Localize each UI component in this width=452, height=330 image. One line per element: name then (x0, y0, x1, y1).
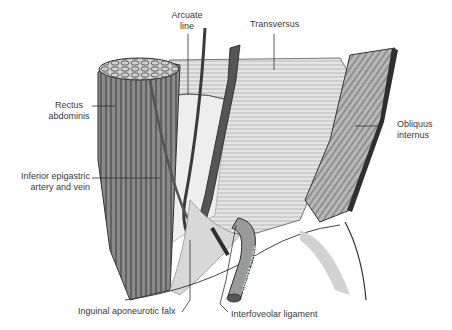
label-line: Interfoveolar ligament (231, 309, 318, 320)
shading (300, 230, 350, 295)
label-interfoveolar-ligament: Interfoveolar ligament (231, 309, 318, 320)
label-obliquus-internus: Obliquus internus (397, 119, 433, 141)
rectus-abdominis-muscle (98, 61, 180, 300)
label-line: abdominis (44, 111, 94, 122)
label-inguinal-falx: Inguinal aponeurotic falx (78, 306, 176, 317)
label-line: Rectus (44, 100, 94, 111)
label-line: Transversus (250, 19, 299, 30)
rectus-cut-surface (99, 58, 179, 80)
label-line: Inferior epigastric (4, 171, 90, 182)
label-line: artery and vein (4, 182, 90, 193)
label-line: line (171, 21, 203, 32)
label-inferior-epigastric: Inferior epigastric artery and vein (4, 171, 90, 193)
anatomical-illustration: SPERM.CORD (0, 0, 452, 330)
label-transversus: Transversus (250, 19, 299, 30)
label-line: internus (397, 130, 433, 141)
label-rectus-abdominis: Rectus abdominis (44, 100, 94, 122)
label-arcuate-line: Arcuate line (171, 10, 203, 32)
label-line: Inguinal aponeurotic falx (78, 306, 176, 317)
label-line: Arcuate (171, 10, 203, 21)
label-line: Obliquus (397, 119, 433, 130)
thigh-contour (345, 222, 366, 300)
